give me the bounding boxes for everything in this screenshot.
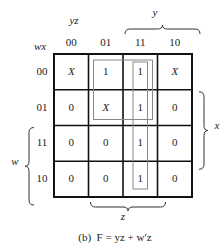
brace-label-w: w	[10, 155, 20, 167]
brace-label-z: z	[118, 210, 128, 222]
caption: (b) F = yz + w′z	[40, 231, 190, 243]
brace-x	[199, 92, 208, 170]
brace-label-x: x	[212, 119, 222, 131]
brace-y	[125, 25, 200, 34]
brace-label-y: y	[150, 6, 160, 18]
karnaugh-map-diagram	[0, 0, 224, 249]
brace-z	[91, 202, 166, 211]
brace-w	[25, 128, 34, 206]
